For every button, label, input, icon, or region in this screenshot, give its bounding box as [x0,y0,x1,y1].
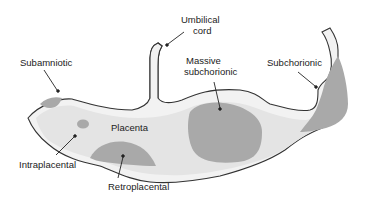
placental-hematoma-diagram: Subamniotic Umbilical cord Massive subch… [0,0,373,200]
label-subamniotic: Subamniotic [20,57,73,68]
label-umbilical-line1: Umbilical [181,14,220,25]
label-umbilical-line2: cord [193,25,211,36]
label-massive-line2: subchorionic [184,66,238,77]
label-massive-line1: Massive [186,55,221,66]
intraplacental-hematoma [77,120,89,129]
subamniotic-arrow [44,70,57,90]
label-intraplacental: Intraplacental [19,159,76,170]
label-subchorionic: Subchorionic [267,57,322,68]
label-retroplacental: Retroplacental [108,181,169,192]
subchorionic-arrow [298,72,315,86]
umbilical-cord [150,43,162,98]
umbilical-arrow [168,32,184,44]
label-placenta: Placenta [111,122,149,133]
